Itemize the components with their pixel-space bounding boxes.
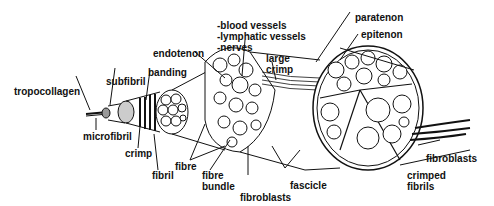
label-fibril: fibril xyxy=(152,170,174,181)
label-large-crimp-line1: large xyxy=(266,53,290,64)
label-crimped-fibrils-line1: crimped xyxy=(407,170,446,181)
label-microfibril: microfibril xyxy=(83,131,132,142)
label-fibre: fibre xyxy=(175,161,197,172)
label-fibre-bundle-line1: fibre xyxy=(202,170,224,181)
label-fibroblasts-center: fibroblasts xyxy=(240,192,291,203)
label-endotenon: endotenon xyxy=(153,48,204,59)
label-banding: banding xyxy=(148,67,187,78)
label-epitenon: epitenon xyxy=(361,29,403,40)
label-fibre-bundle-line2: bundle xyxy=(202,181,235,192)
label-lymphatic-vessels: -lymphatic vessels xyxy=(217,31,306,42)
label-tropocollagen: tropocollagen xyxy=(14,86,80,97)
label-subfibril: subfibril xyxy=(106,76,145,87)
label-large-crimp-line2: crimp xyxy=(266,64,293,75)
label-fibroblasts-right: fibroblasts xyxy=(426,153,477,164)
label-crimped-fibrils-line2: fibrils xyxy=(407,181,434,192)
label-nerves: -nerves xyxy=(217,42,253,53)
label-fascicle: fascicle xyxy=(290,180,327,191)
label-crimp: crimp xyxy=(125,148,152,159)
label-paratenon: paratenon xyxy=(355,12,403,23)
label-blood-vessels: -blood vessels xyxy=(217,20,286,31)
